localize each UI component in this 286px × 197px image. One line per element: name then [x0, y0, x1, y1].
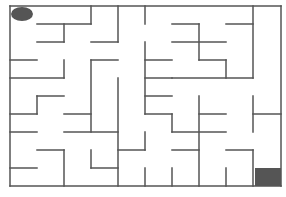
maze-board [0, 0, 286, 197]
player-token[interactable] [11, 7, 33, 21]
goal-square [255, 168, 281, 186]
maze-walls [10, 6, 281, 186]
